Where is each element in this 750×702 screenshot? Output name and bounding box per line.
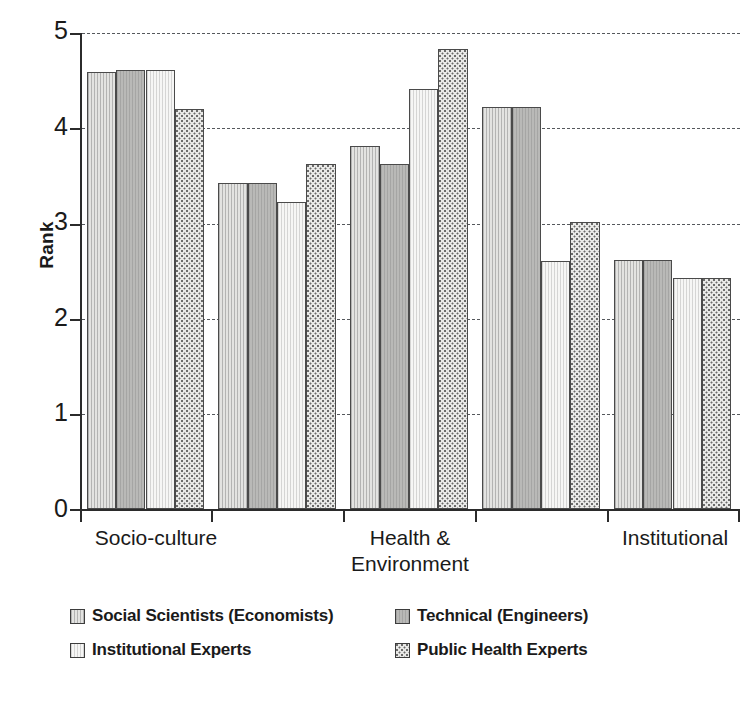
x-category-label-health-environment: Health & Environment bbox=[320, 525, 500, 578]
bar-series-2-group-2 bbox=[248, 183, 277, 509]
bar-series-1-group-2 bbox=[218, 183, 247, 509]
bar-series-4-group-4 bbox=[570, 222, 599, 510]
legend-label-public-health-experts: Public Health Experts bbox=[417, 640, 588, 660]
bar-series-2-group-3 bbox=[380, 164, 409, 509]
legend-swatch-social-scientists-icon bbox=[70, 609, 85, 624]
legend-swatch-technical-icon bbox=[395, 609, 410, 624]
legend-item-social-scientists[interactable]: Social Scientists (Economists) bbox=[70, 606, 395, 626]
legend-row-1: Social Scientists (Economists) Technical… bbox=[70, 606, 690, 626]
x-category-label-socio-culture: Socio-culture bbox=[56, 525, 256, 551]
legend-item-technical[interactable]: Technical (Engineers) bbox=[395, 606, 675, 626]
bar-series-1-group-3 bbox=[350, 146, 379, 509]
legend-swatch-public-health-experts-icon bbox=[395, 643, 410, 658]
legend-swatch-institutional-experts-icon bbox=[70, 643, 85, 658]
bar-series-3-group-4 bbox=[541, 261, 570, 509]
x-category-label-institutional: Institutional bbox=[585, 525, 750, 551]
bar-series-3-group-5 bbox=[673, 278, 702, 509]
bar-series-3-group-2 bbox=[277, 202, 306, 509]
bar-series-4-group-3 bbox=[438, 49, 467, 509]
bar-series-1-group-1 bbox=[87, 72, 116, 509]
legend-label-institutional-experts: Institutional Experts bbox=[92, 640, 251, 660]
bar-series-2-group-5 bbox=[643, 260, 672, 509]
bar-series-layer bbox=[0, 0, 750, 530]
bar-series-1-group-5 bbox=[614, 260, 643, 509]
bar-series-4-group-1 bbox=[175, 109, 204, 509]
legend-item-public-health-experts[interactable]: Public Health Experts bbox=[395, 640, 675, 660]
x-category-label-health-line2: Environment bbox=[320, 551, 500, 577]
bar-series-1-group-4 bbox=[482, 107, 511, 509]
legend-item-institutional-experts[interactable]: Institutional Experts bbox=[70, 640, 395, 660]
legend-label-social-scientists: Social Scientists (Economists) bbox=[92, 606, 334, 626]
bar-series-4-group-5 bbox=[702, 278, 731, 509]
bar-series-3-group-3 bbox=[409, 89, 438, 509]
legend-label-technical: Technical (Engineers) bbox=[417, 606, 588, 626]
bar-chart-figure: Rank 5 4 3 2 1 0 Socio-culture bbox=[0, 0, 750, 702]
bar-series-4-group-2 bbox=[306, 164, 335, 509]
bar-series-2-group-4 bbox=[512, 107, 541, 509]
plot-area: Rank 5 4 3 2 1 0 Socio-culture bbox=[0, 0, 750, 530]
bar-series-3-group-1 bbox=[146, 70, 175, 509]
legend-row-2: Institutional Experts Public Health Expe… bbox=[70, 640, 690, 660]
bar-series-2-group-1 bbox=[116, 70, 145, 509]
x-category-label-health-line1: Health & bbox=[320, 525, 500, 551]
chart-legend: Social Scientists (Economists) Technical… bbox=[70, 606, 690, 674]
